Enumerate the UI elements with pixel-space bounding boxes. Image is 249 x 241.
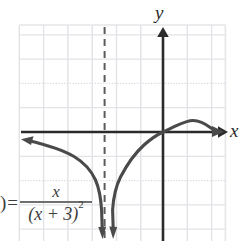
denominator-base: (x + 3): [28, 204, 78, 224]
denominator-exponent: 2: [78, 198, 84, 210]
left-branch-arrow-left: [21, 136, 34, 145]
equation-denominator: (x + 3)2: [26, 203, 86, 223]
x-axis-label: x: [230, 120, 238, 142]
equation-equals-sign: =: [7, 193, 20, 212]
y-axis-label: y: [155, 2, 163, 24]
equation-numerator: x: [48, 183, 64, 201]
equation-fraction: x (x + 3)2: [20, 183, 92, 223]
y-axis-arrow: [157, 27, 169, 37]
equation-lhs: ): [0, 193, 7, 212]
function-equation: ) = x (x + 3)2: [0, 183, 92, 223]
graph-figure: y x ) = x (x + 3)2: [0, 0, 249, 241]
curve-right-branch: [109, 120, 224, 239]
